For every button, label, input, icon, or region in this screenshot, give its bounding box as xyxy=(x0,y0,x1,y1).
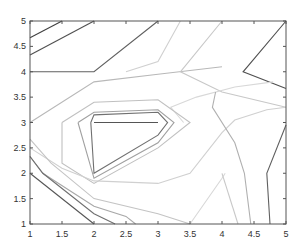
contour-line-6 xyxy=(243,21,286,89)
contour-line-20 xyxy=(267,125,286,224)
x-tick-label: 2.5 xyxy=(120,229,133,239)
x-tick-label: 3 xyxy=(155,229,160,239)
contour-line-16 xyxy=(30,173,94,224)
contour-line-4 xyxy=(126,21,180,72)
contour-line-17 xyxy=(190,173,225,224)
contour-line-5 xyxy=(180,21,286,107)
x-tick-label: 1.5 xyxy=(56,229,69,239)
contour-line-14 xyxy=(30,157,136,225)
contour-lines xyxy=(30,21,286,224)
x-tick-label: 4 xyxy=(219,229,224,239)
contour-line-0 xyxy=(30,21,62,38)
x-tick-label: 2 xyxy=(91,229,96,239)
y-tick-label: 4.5 xyxy=(13,41,26,51)
contour-line-19 xyxy=(222,173,238,224)
y-tick-label: 5 xyxy=(21,16,26,26)
x-axis: 11.522.533.544.55 xyxy=(27,21,288,239)
y-tick-label: 3.5 xyxy=(13,92,26,102)
x-tick-label: 1 xyxy=(27,229,32,239)
x-tick-label: 3.5 xyxy=(184,229,197,239)
y-tick-label: 2.5 xyxy=(13,143,26,153)
contour-line-1 xyxy=(30,21,94,55)
contour-line-7 xyxy=(171,82,273,123)
contour-line-8 xyxy=(62,100,190,184)
y-tick-label: 1.5 xyxy=(13,194,26,204)
y-tick-label: 2 xyxy=(21,168,26,178)
contour-line-15 xyxy=(30,157,115,225)
contour-line-2 xyxy=(30,21,158,72)
y-tick-label: 3 xyxy=(21,118,26,128)
contour-chart: 11.522.533.544.55 11.522.533.544.55 xyxy=(0,0,302,250)
y-tick-label: 4 xyxy=(21,67,26,77)
x-tick-label: 4.5 xyxy=(248,229,261,239)
x-tick-label: 5 xyxy=(283,229,288,239)
y-tick-label: 1 xyxy=(21,219,26,229)
